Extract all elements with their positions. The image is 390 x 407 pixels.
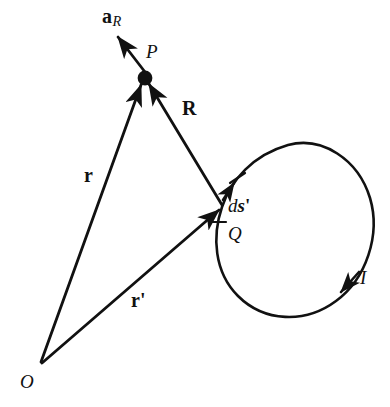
label-unit-vector-aR: aR xyxy=(102,6,121,29)
tick-mark-upper-icon xyxy=(230,173,245,183)
diagram-canvas xyxy=(0,0,390,407)
label-aR-subscript: R xyxy=(113,13,122,29)
label-current-I: I xyxy=(360,268,366,287)
unit-vector-aR-arrow xyxy=(118,37,145,72)
label-origin-O: O xyxy=(20,372,34,391)
label-vector-R: R xyxy=(182,98,196,118)
label-field-point-P: P xyxy=(146,42,158,61)
label-ds-s: s xyxy=(238,195,245,216)
label-vector-r-prime: r' xyxy=(131,290,145,310)
label-r-prime-base: r xyxy=(131,289,140,311)
label-ds-d: d xyxy=(228,195,238,216)
label-r-prime-mark: ' xyxy=(140,289,146,311)
label-differential-element-ds-prime: ds' xyxy=(228,196,250,215)
label-vector-r: r xyxy=(84,165,93,185)
field-point-dot xyxy=(138,71,153,86)
vector-diagram: aR P R r r' ds' Q I O xyxy=(0,0,390,407)
label-source-point-Q: Q xyxy=(228,224,242,243)
label-ds-prime-mark: ' xyxy=(245,195,250,216)
